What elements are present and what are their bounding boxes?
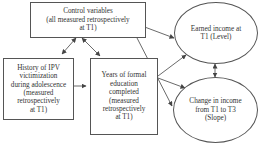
edge-education-income-level <box>158 55 186 76</box>
income-slope-ellipse: Change in income from T1 to T3 (Slope) <box>173 77 258 143</box>
edge-control-income-level <box>142 26 174 38</box>
education-label: Years of formal education completed (mea… <box>102 71 147 121</box>
education-box: Years of formal education completed (mea… <box>90 58 158 135</box>
income-level-ellipse: Earned income at T1 (Level) <box>174 2 258 64</box>
control-variables-label: Control variables (all measured retrospe… <box>46 7 129 32</box>
edge-control-ipv <box>62 38 76 54</box>
control-variables-box: Control variables (all measured retrospe… <box>30 2 146 38</box>
income-slope-label: Change in income from T1 to T3 (Slope) <box>189 97 241 122</box>
edge-control-education <box>82 38 100 56</box>
ipv-history-label: History of IPV victimization during adol… <box>11 64 66 114</box>
ipv-history-box: History of IPV victimization during adol… <box>3 58 74 120</box>
income-level-label: Earned income at T1 (Level) <box>191 25 241 42</box>
